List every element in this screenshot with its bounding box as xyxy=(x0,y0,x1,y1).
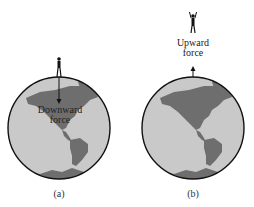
person-icon xyxy=(190,12,197,33)
force-label-line2: force xyxy=(34,115,86,125)
arrow-up-icon xyxy=(191,66,196,77)
caption-a: (a) xyxy=(49,188,69,199)
person-icon xyxy=(57,57,61,77)
panel-b: Upward force (b) xyxy=(127,0,254,207)
force-label-a: Downward force xyxy=(34,105,86,125)
force-label-line2: force xyxy=(167,48,219,58)
globe-b-graphic xyxy=(127,0,254,207)
caption-b: (b) xyxy=(183,188,203,199)
panel-a: Downward force (a) xyxy=(0,0,127,207)
force-label-b: Upward force xyxy=(167,38,219,58)
